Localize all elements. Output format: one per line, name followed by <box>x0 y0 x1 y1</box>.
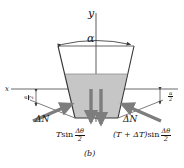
tension-right-denominator: 2 <box>161 136 171 143</box>
tension-left-expression: TsinΔθ2 <box>56 128 85 142</box>
tension-left-fraction: Δθ2 <box>75 128 85 142</box>
half-angle-right-fraction: α2 <box>168 91 172 102</box>
half-angle-left-denominator: 2 <box>29 95 34 99</box>
tension-right-function: sin <box>147 130 160 139</box>
belt-shaded-region <box>65 74 128 118</box>
figure-container: y x α ΔN ΔN TsinΔθ2 (T + ΔT)sinΔθ2 α2 α2… <box>0 0 184 168</box>
x-axis-label: x <box>5 86 9 93</box>
normal-force-right-label: ΔN <box>123 115 137 124</box>
half-angle-right-denominator: 2 <box>168 97 172 102</box>
diagram-canvas <box>0 0 184 168</box>
half-angle-left-label: α2 <box>23 95 34 100</box>
half-angle-right-label: α2 <box>168 91 173 102</box>
tension-right-expression: (T + ΔT)sinΔθ2 <box>113 128 171 142</box>
figure-caption: (b) <box>84 150 95 158</box>
tension-right-coefficient: (T + ΔT) <box>113 130 147 139</box>
tension-left-function: sin <box>61 130 74 139</box>
tension-left-denominator: 2 <box>75 136 85 143</box>
y-axis-label: y <box>88 8 94 19</box>
half-angle-left-fraction: α2 <box>23 95 34 99</box>
alpha-angle-label: α <box>87 33 94 44</box>
tension-right-fraction: Δθ2 <box>161 128 171 142</box>
normal-force-left-label: ΔN <box>35 115 49 124</box>
